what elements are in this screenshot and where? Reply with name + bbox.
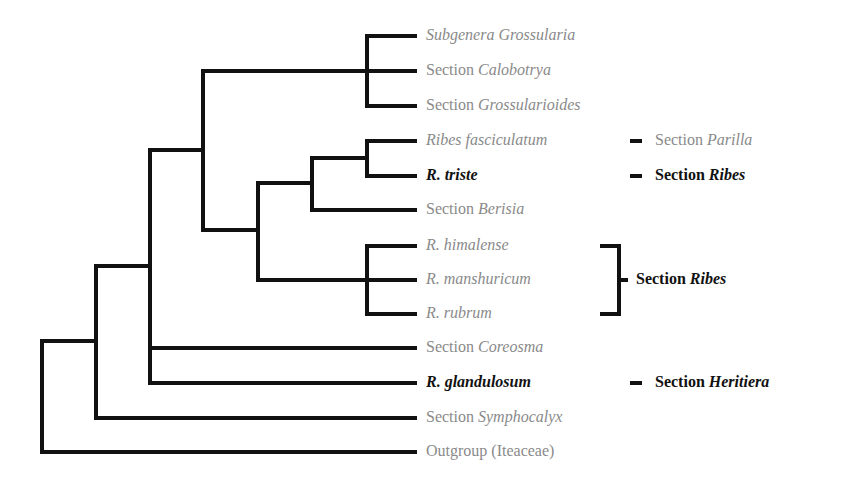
section-label: Section Parilla bbox=[655, 131, 752, 149]
section-tick bbox=[630, 174, 642, 178]
section-label: Section Ribes bbox=[655, 166, 745, 184]
taxon-label: Section Berisia bbox=[426, 200, 524, 218]
taxon-label: Outgroup (Iteaceae) bbox=[426, 442, 554, 460]
taxon-label: R. manshuricum bbox=[426, 270, 531, 288]
taxon-label: Ribes fasciculatum bbox=[426, 131, 547, 149]
taxon-label: R. himalense bbox=[426, 236, 509, 254]
taxon-label: R. triste bbox=[426, 166, 478, 184]
taxon-label: Section Symphocalyx bbox=[426, 408, 562, 426]
section-tick bbox=[630, 139, 642, 143]
section-tick bbox=[630, 381, 642, 385]
taxon-label: Section Coreosma bbox=[426, 338, 543, 356]
phylogenetic-tree bbox=[0, 0, 846, 490]
taxon-label: Section Calobotrya bbox=[426, 61, 551, 79]
taxon-label: Subgenera Grossularia bbox=[426, 26, 575, 44]
section-label: Section Ribes bbox=[636, 270, 726, 288]
taxon-label: R. rubrum bbox=[426, 304, 492, 322]
section-label: Section Heritiera bbox=[655, 373, 769, 391]
taxon-label: R. glandulosum bbox=[426, 373, 531, 391]
taxon-label: Section Grossularioides bbox=[426, 96, 581, 114]
